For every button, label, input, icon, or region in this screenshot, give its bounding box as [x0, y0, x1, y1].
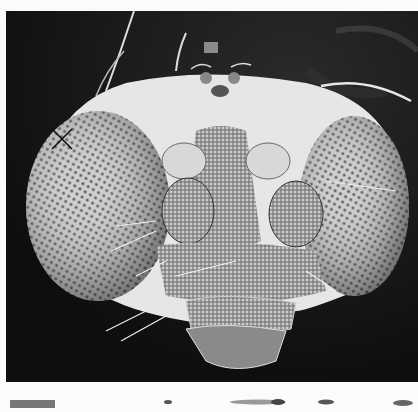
- sem-micrograph: [6, 11, 418, 382]
- fly-head-illustration: [6, 11, 418, 382]
- next-figure-strip: [8, 393, 418, 402]
